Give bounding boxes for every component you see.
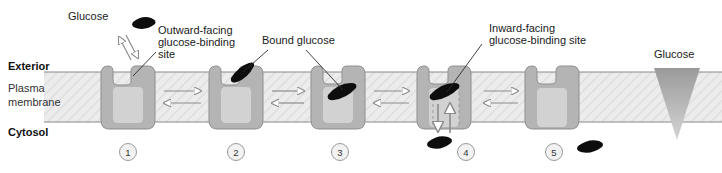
label-plasma-membrane-line1: Plasma — [8, 82, 46, 94]
svg-text:glucose-binding: glucose-binding — [158, 36, 235, 48]
callout-bound-glucose: Bound glucose — [262, 34, 335, 46]
callout-glucose-right: Glucose — [654, 48, 694, 60]
diagram-canvas: Exterior Plasma membrane Cytosol — [0, 0, 722, 173]
svg-text:site: site — [158, 48, 175, 60]
step-badge-2: 2 — [228, 144, 245, 161]
svg-text:5: 5 — [551, 147, 556, 158]
callout-outward-facing-site: Outward-facing glucose-binding site — [158, 24, 235, 60]
svg-text:Inward-facing: Inward-facing — [489, 22, 555, 34]
callout-glucose-top: Glucose — [68, 10, 108, 22]
svg-text:4: 4 — [463, 147, 468, 158]
svg-text:1: 1 — [125, 147, 130, 158]
svg-text:3: 3 — [337, 147, 342, 158]
glucose-molecule-free-top — [132, 17, 156, 29]
label-cytosol: Cytosol — [8, 126, 48, 138]
glucose-molecule-released-cytosol — [427, 136, 452, 149]
svg-text:glucose-binding site: glucose-binding site — [489, 34, 586, 46]
glucose-molecule-free-cytosol — [577, 140, 603, 153]
label-exterior: Exterior — [8, 60, 50, 72]
label-plasma-membrane-line2: membrane — [8, 96, 61, 108]
step-badge-1: 1 — [120, 144, 137, 161]
svg-text:2: 2 — [233, 147, 238, 158]
step-badge-4: 4 — [458, 144, 475, 161]
callout-inward-facing-site: Inward-facing glucose-binding site — [489, 22, 586, 46]
step-badge-5: 5 — [546, 144, 563, 161]
svg-text:Outward-facing: Outward-facing — [158, 24, 233, 36]
step-badge-3: 3 — [332, 144, 349, 161]
arrow-pair-entry — [119, 35, 138, 60]
